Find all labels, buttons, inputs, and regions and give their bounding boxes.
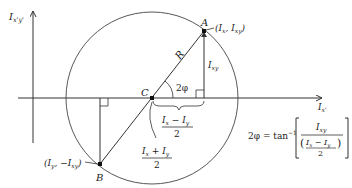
svg-text:(: ( <box>300 137 304 150</box>
svg-text:2: 2 <box>318 149 323 158</box>
point-a <box>202 29 206 33</box>
svg-text:Ix − Iy: Ix − Iy <box>305 138 331 149</box>
mohrs-circle-diagram: Ix'y' Ix' A B C (Ix, Ixy) (Iy, −Ixy) R 2… <box>0 0 352 188</box>
svg-text:Ix − Iy: Ix − Iy <box>161 115 190 127</box>
horizontal-axis-label: Ix' <box>317 102 327 113</box>
svg-text:Ix + Iy: Ix + Iy <box>141 146 170 158</box>
point-c <box>150 96 154 100</box>
right-angle-marker-a <box>196 90 204 98</box>
center-position-fraction: Ix + Iy 2 <box>141 146 172 170</box>
point-c-label: C <box>141 87 149 98</box>
ixy-label: Ixy <box>207 60 219 72</box>
svg-text:Ixy: Ixy <box>315 122 327 134</box>
tan-formula: 2φ = tan−1 Ixy ( Ix − Iy 2 ) <box>248 118 348 158</box>
point-b-coords: (Iy, −Ixy) <box>44 158 82 170</box>
half-diff-brace <box>153 101 204 110</box>
svg-text:2: 2 <box>154 160 160 170</box>
center-leader <box>150 102 156 138</box>
point-b-label: B <box>95 172 103 183</box>
radius-label: R <box>172 48 186 62</box>
point-b <box>98 162 102 166</box>
point-a-label: A <box>200 17 208 28</box>
a-leader <box>206 28 214 30</box>
vertical-axis-label: Ix'y' <box>8 11 24 24</box>
svg-text:2: 2 <box>174 129 180 139</box>
angle-arc <box>165 81 173 98</box>
right-angle-marker-b <box>100 98 108 106</box>
angle-label: 2φ <box>176 83 188 93</box>
svg-text:2φ = tan−1: 2φ = tan−1 <box>248 129 297 141</box>
point-a-coords: (Ix, Ixy) <box>215 23 246 35</box>
svg-text:): ) <box>337 137 341 150</box>
half-diff-fraction: Ix − Iy 2 <box>161 115 193 139</box>
